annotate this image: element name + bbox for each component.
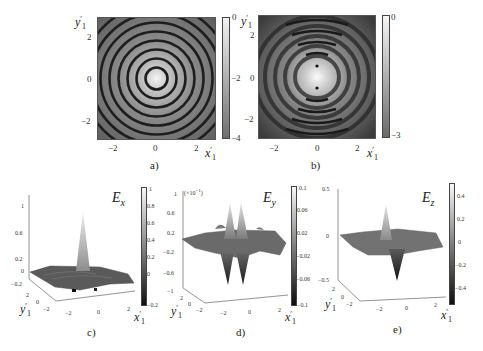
d-cbar-006: 0.06	[297, 207, 308, 213]
caption-d: d)	[236, 327, 245, 338]
c-ytick-neg2: −2	[43, 306, 49, 312]
d-ztick-neg1: −1	[167, 288, 173, 294]
d-xtick-0: 0	[248, 309, 251, 315]
d-cbar-002: 0.02	[297, 230, 308, 236]
caption-b: b)	[311, 160, 320, 171]
e-xlabel: x′1	[441, 307, 452, 326]
c-title: Ex	[112, 190, 125, 208]
caption-a: a)	[150, 160, 159, 171]
b-xlabel: x′1	[367, 145, 378, 164]
d-ytick-neg2: −2	[196, 307, 202, 313]
b-cbar-neg3: −3	[391, 131, 401, 140]
a-xtick-neg2: −2	[108, 144, 118, 153]
a-xlabel: x′1	[205, 145, 216, 164]
e-title: Ez	[422, 190, 434, 208]
a-cbar-0: 0	[232, 13, 237, 22]
a-ytick-0: 0	[87, 75, 92, 84]
a-xtick-0: 0	[153, 144, 158, 153]
surface-c	[0, 175, 160, 315]
c-ytick-2: 2	[26, 292, 29, 298]
b-xtick-0: 0	[315, 144, 320, 153]
c-xlabel: x′1	[134, 309, 145, 328]
e-ytick-neg2: −2	[346, 301, 352, 307]
e-ytick-0: 0	[341, 294, 344, 300]
e-ztick-0: 0	[326, 233, 329, 239]
c-cbar-1: 1	[149, 186, 152, 192]
d-cbar-neg006: −0.06	[296, 276, 310, 282]
c-ztick-neg02: −0.2	[11, 281, 22, 287]
heatmap-b	[258, 15, 376, 139]
d-colorbar	[291, 186, 297, 306]
c-cbar-08: 0.8	[147, 203, 155, 209]
b-xtick-neg2: −2	[269, 144, 279, 153]
b-xtick-2: 2	[355, 144, 360, 153]
c-cbar-06: 0.6	[147, 220, 155, 226]
caption-c: c)	[87, 327, 96, 338]
c-ytick-0: 0	[36, 299, 39, 305]
a-ytick-neg2: −2	[81, 117, 91, 126]
d-scale: (×10−1)	[184, 188, 203, 196]
heatmap-a	[97, 17, 216, 140]
e-ylabel: y′1	[325, 296, 336, 315]
b-ylabel: y′1	[241, 13, 252, 32]
a-cbar-neg4: −4	[231, 134, 241, 143]
c-ztick-0: 0	[21, 268, 24, 274]
d-cbar-neg002: −0.02	[296, 253, 310, 259]
d-title: Ey	[263, 190, 276, 208]
e-ytick-2: 2	[332, 286, 335, 292]
d-xtick-neg2: −2	[220, 310, 226, 316]
c-xtick-0: 0	[97, 309, 100, 315]
d-ytick-0: 0	[188, 301, 191, 307]
d-xtick-2: 2	[278, 307, 281, 313]
d-xlabel: x′1	[285, 309, 296, 328]
c-cbar-0: 0	[147, 271, 150, 277]
e-ztick-neg05: −0.5	[318, 277, 329, 283]
c-ztick-02: 0.2	[15, 256, 23, 262]
c-xtick-neg2: −2	[65, 310, 71, 316]
a-cbar-neg2: −2	[231, 74, 241, 83]
e-cbar-neg02: −0.2	[455, 262, 466, 268]
d-cbar-01: 0.1	[299, 185, 307, 191]
e-ztick-05: 0.5	[322, 186, 330, 192]
c-cbar-neg02: −0.2	[147, 302, 158, 308]
e-cbar-0: 0	[458, 239, 461, 245]
b-cbar-0: 0	[391, 13, 396, 22]
b-ytick-2: 2	[250, 31, 255, 40]
c-ylabel: y′1	[20, 301, 31, 320]
a-ylabel: y′1	[75, 14, 86, 33]
c-ztick-06: 0.6	[15, 230, 23, 236]
c-xtick-2: 2	[127, 306, 130, 312]
d-ztick-02: 0.2	[167, 230, 175, 236]
d-ztick-neg06: −0.6	[163, 270, 174, 276]
c-ztick-1: 1	[21, 203, 24, 209]
caption-e: e)	[393, 324, 402, 335]
e-xtick-2: 2	[434, 302, 437, 308]
c-cbar-02: 0.2	[147, 254, 155, 260]
d-cbar-neg01: −0.1	[297, 302, 308, 308]
a-ytick-2: 2	[87, 33, 92, 42]
b-ytick-0: 0	[250, 74, 255, 83]
e-cbar-02: 0.2	[457, 216, 465, 222]
b-colorbar	[382, 15, 390, 138]
c-cbar-04: 0.4	[147, 237, 155, 243]
e-xtick-neg2: −2	[376, 306, 382, 312]
d-ztick-neg02: −0.2	[163, 249, 174, 255]
e-cbar-neg04: −0.4	[455, 285, 466, 291]
d-ylabel: y′1	[171, 303, 182, 322]
a-xtick-2: 2	[194, 144, 199, 153]
e-xtick-0: 0	[405, 305, 408, 311]
d-ztick-06: 0.6	[167, 210, 175, 216]
d-ytick-2: 2	[180, 295, 183, 301]
b-ytick-neg2: −2	[244, 115, 254, 124]
a-colorbar	[222, 17, 230, 139]
e-cbar-04: 0.4	[457, 193, 465, 199]
d-ztick-1: 1	[174, 191, 177, 197]
